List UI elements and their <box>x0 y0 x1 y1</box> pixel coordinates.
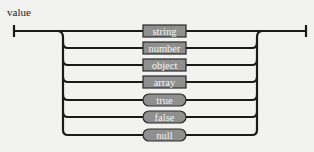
node-label-null: null <box>156 130 172 141</box>
node-label-object: object <box>152 60 178 71</box>
left-branch-bus <box>57 31 68 135</box>
right-branch-bus <box>252 31 263 135</box>
node-label-string: string <box>153 26 178 37</box>
railroad-diagram: string number object array true false nu… <box>0 0 314 152</box>
node-label-false: false <box>155 112 175 123</box>
node-label-true: true <box>156 95 173 106</box>
node-label-array: array <box>154 77 176 88</box>
node-label-number: number <box>148 43 181 54</box>
